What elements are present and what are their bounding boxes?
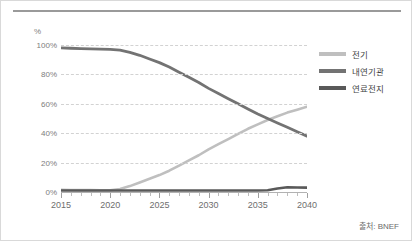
legend-swatch-icon (319, 69, 346, 73)
x-axis-minor-tick (268, 193, 269, 196)
legend-item[interactable]: 내연기관 (319, 64, 409, 78)
x-axis-tick-label: 2020 (100, 200, 120, 210)
x-axis-major-tick (110, 193, 111, 198)
y-axis-tick-label: 60% (41, 99, 57, 108)
x-axis-minor-tick (71, 193, 72, 196)
x-axis-major-tick (61, 193, 62, 198)
x-axis-tick-labels: 201520202025203020352040 (61, 200, 307, 214)
gridline (61, 104, 307, 105)
x-axis-minor-tick (81, 193, 82, 196)
x-axis-minor-tick (218, 193, 219, 196)
legend-item[interactable]: 전기 (319, 47, 409, 61)
legend-item[interactable]: 연료전지 (319, 81, 409, 95)
x-axis-minor-tick (199, 193, 200, 196)
legend-item-label: 내연기관 (352, 65, 384, 77)
x-axis-minor-tick (189, 193, 190, 196)
x-axis-minor-tick (277, 193, 278, 196)
top-divider-rule (13, 10, 401, 12)
gridline (61, 45, 307, 46)
y-axis-tick-label: 40% (41, 129, 57, 138)
legend-swatch-icon (319, 52, 346, 56)
x-axis-minor-tick (248, 193, 249, 196)
series-lines-svg (61, 45, 307, 192)
x-axis-tick-label: 2035 (248, 200, 268, 210)
source-note: 출처: BNEF (359, 220, 399, 231)
x-axis-minor-tick (150, 193, 151, 196)
x-axis-minor-tick (130, 193, 131, 196)
x-axis-minor-tick (120, 193, 121, 196)
chart-legend: 전기내연기관연료전지 (319, 47, 409, 98)
x-axis-tick-label: 2030 (199, 200, 219, 210)
gridline (61, 163, 307, 164)
gridline (61, 74, 307, 75)
y-axis-tick-labels: 0%20%40%60%80%100% (21, 45, 57, 192)
y-axis-tick-label: 80% (41, 70, 57, 79)
legend-item-label: 연료전지 (352, 82, 384, 94)
x-axis-major-tick (307, 193, 308, 198)
x-axis-tick-label: 2025 (149, 200, 169, 210)
x-axis-tick-label: 2015 (51, 200, 71, 210)
y-axis-tick-label: 20% (41, 158, 57, 167)
chart-figure: % 0%20%40%60%80%100% 2015202020252030203… (0, 0, 412, 241)
x-axis-major-tick (209, 193, 210, 198)
y-axis-unit-label: % (34, 27, 41, 36)
y-axis-tick-label: 0% (45, 188, 57, 197)
x-axis-major-tick (159, 193, 160, 198)
plot-area (61, 45, 307, 192)
x-axis-ticks (61, 193, 307, 199)
x-axis-minor-tick (238, 193, 239, 196)
y-axis-tick-label: 100% (37, 41, 57, 50)
gridline (61, 133, 307, 134)
x-axis-minor-tick (169, 193, 170, 196)
x-axis-minor-tick (287, 193, 288, 196)
x-axis-minor-tick (91, 193, 92, 196)
x-axis-major-tick (258, 193, 259, 198)
series-line (61, 48, 307, 136)
legend-item-label: 전기 (352, 48, 368, 60)
x-axis-minor-tick (228, 193, 229, 196)
x-axis-minor-tick (100, 193, 101, 196)
legend-swatch-icon (319, 86, 346, 90)
x-axis-minor-tick (179, 193, 180, 196)
x-axis-minor-tick (140, 193, 141, 196)
x-axis-minor-tick (297, 193, 298, 196)
x-axis-tick-label: 2040 (297, 200, 317, 210)
